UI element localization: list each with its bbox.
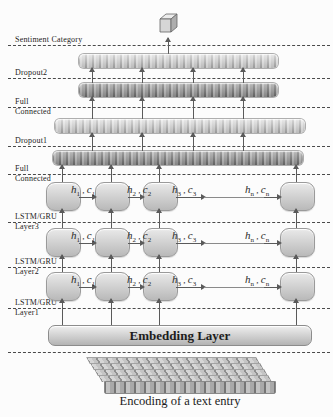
up-arrow-icon bbox=[62, 209, 63, 228]
separator-input bbox=[8, 352, 330, 353]
hidden-state-label: hn , cn bbox=[245, 183, 269, 200]
hidden-state-label: hn , cn bbox=[245, 229, 269, 246]
hidden-state-label: h1 , c1 bbox=[71, 273, 95, 290]
up-arrow-icon bbox=[296, 165, 297, 182]
dropout2-output-vector bbox=[79, 54, 278, 68]
separator-text: , bbox=[254, 275, 261, 285]
separator-full-connected-1 bbox=[8, 107, 330, 108]
label-dropout1: Dropout1 bbox=[15, 136, 47, 146]
hidden-state-label: h3 , c3 bbox=[172, 183, 196, 200]
label-lstm-layer1: LSTM/GRU Layer1 bbox=[15, 298, 57, 318]
label-line: Dropout2 bbox=[15, 68, 47, 78]
label-dropout2: Dropout2 bbox=[15, 68, 47, 78]
c-subscript: 1 bbox=[92, 280, 96, 288]
embedding-layer-bar: Embedding Layer bbox=[48, 325, 312, 346]
up-arrow-icon bbox=[111, 165, 112, 182]
label-line: Sentiment Category bbox=[15, 35, 82, 45]
c-subscript: 2 bbox=[148, 280, 152, 288]
lstm-cell-block bbox=[280, 228, 315, 257]
label-line: Dropout1 bbox=[15, 136, 47, 146]
hidden-state-label: h2 , c2 bbox=[127, 273, 151, 290]
c-subscript: n bbox=[266, 236, 270, 244]
c-subscript: 1 bbox=[92, 190, 96, 198]
label-line: Full bbox=[15, 164, 51, 174]
up-arrow-icon bbox=[111, 209, 112, 228]
separator-sentiment bbox=[8, 45, 330, 46]
separator-text: , bbox=[80, 231, 87, 241]
up-arrow-icon bbox=[296, 255, 297, 272]
up-arrow-icon bbox=[243, 68, 244, 83]
hidden-state-label: h1 , c1 bbox=[71, 183, 95, 200]
up-arrow-icon bbox=[243, 133, 244, 151]
dropout1-output-vector bbox=[55, 119, 305, 133]
embedding-layer-label: Embedding Layer bbox=[130, 328, 231, 344]
up-arrow-icon bbox=[142, 68, 143, 83]
up-arrow-icon bbox=[92, 133, 93, 151]
lstm-cell-block bbox=[95, 272, 130, 301]
c-subscript: n bbox=[266, 280, 270, 288]
hidden-state-label: h2 , c2 bbox=[127, 183, 151, 200]
hidden-state-label: h2 , c2 bbox=[127, 229, 151, 246]
up-arrow-icon bbox=[159, 255, 160, 272]
matrix-front-face bbox=[104, 381, 276, 394]
label-sentiment-category: Sentiment Category bbox=[15, 35, 82, 45]
up-arrow-icon bbox=[159, 209, 160, 228]
lstm-cell-block bbox=[280, 272, 315, 301]
separator-text: , bbox=[181, 185, 188, 195]
up-arrow-icon bbox=[142, 97, 143, 119]
separator-text: , bbox=[254, 231, 261, 241]
label-line: Full bbox=[15, 97, 51, 107]
up-arrow-icon bbox=[111, 299, 112, 325]
separator-text: , bbox=[254, 185, 261, 195]
separator-dropout2 bbox=[8, 78, 330, 79]
up-arrow-icon bbox=[142, 133, 143, 151]
up-arrow-icon bbox=[159, 165, 160, 182]
c-subscript: 3 bbox=[193, 190, 197, 198]
lstm-cell-block bbox=[95, 228, 130, 257]
fc1-output-vector bbox=[53, 151, 303, 165]
up-arrow-icon bbox=[193, 97, 194, 119]
text-encoding-matrix bbox=[86, 357, 286, 393]
c-subscript: n bbox=[266, 190, 270, 198]
label-line: LSTM/GRU bbox=[15, 212, 57, 222]
label-line: LSTM/GRU bbox=[15, 257, 57, 267]
separator-text: , bbox=[80, 185, 87, 195]
hidden-state-label: h1 , c1 bbox=[71, 229, 95, 246]
label-full-connected-2: Full Connected bbox=[15, 164, 51, 184]
fc2-output-vector bbox=[79, 83, 278, 97]
up-arrow-icon bbox=[62, 165, 63, 182]
up-arrow-icon bbox=[111, 255, 112, 272]
separator-dropout1 bbox=[8, 146, 330, 147]
separator-text: , bbox=[80, 275, 87, 285]
separator-text: , bbox=[136, 231, 143, 241]
up-arrow-icon bbox=[296, 299, 297, 325]
label-full-connected-1: Full Connected bbox=[15, 97, 51, 117]
separator-text: , bbox=[181, 275, 188, 285]
label-line: Layer1 bbox=[15, 308, 57, 318]
hidden-state-label: h3 , c3 bbox=[172, 273, 196, 290]
up-arrow-icon bbox=[193, 133, 194, 151]
up-arrow-icon bbox=[243, 97, 244, 119]
up-arrow-icon bbox=[62, 299, 63, 325]
lstm-cell-block bbox=[95, 182, 130, 211]
c-subscript: 1 bbox=[92, 236, 96, 244]
label-line: Connected bbox=[15, 174, 51, 184]
separator-full-connected-2 bbox=[8, 174, 330, 175]
separator-text: , bbox=[136, 275, 143, 285]
up-arrow-icon bbox=[62, 255, 63, 272]
up-arrow-icon bbox=[159, 299, 160, 325]
up-arrow-icon bbox=[168, 38, 169, 54]
network-diagram: Sentiment Category Dropout2 Full Connect… bbox=[0, 0, 333, 417]
c-subscript: 3 bbox=[193, 236, 197, 244]
up-arrow-icon bbox=[193, 68, 194, 83]
lstm-cell-block bbox=[280, 182, 315, 211]
c-subscript: 3 bbox=[193, 280, 197, 288]
up-arrow-icon bbox=[296, 209, 297, 228]
label-line: Connected bbox=[15, 107, 51, 117]
c-subscript: 2 bbox=[148, 236, 152, 244]
separator-text: , bbox=[181, 231, 188, 241]
input-caption: Encoding of a text entry bbox=[70, 394, 290, 409]
up-arrow-icon bbox=[92, 68, 93, 83]
up-arrow-icon bbox=[92, 97, 93, 119]
c-subscript: 2 bbox=[148, 190, 152, 198]
